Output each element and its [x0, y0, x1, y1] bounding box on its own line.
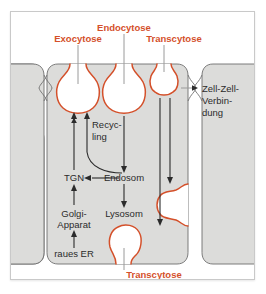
label-transcytose-bottom: Transcytose	[126, 269, 181, 279]
label-golgi-line1: Golgi-	[61, 208, 86, 219]
label-transcytose-top: Transcytose	[146, 33, 201, 44]
label-zell-zell-line3: dung	[202, 107, 223, 118]
cell-left-body	[11, 64, 44, 264]
label-recycling-line1: Recyc-	[92, 119, 122, 130]
figure-panel: Endocytose Exocytose Transcytose Transcy…	[10, 11, 255, 280]
cell-right	[202, 64, 254, 264]
label-raues-er: raues ER	[54, 248, 94, 259]
label-endosom: Endosom	[104, 172, 144, 183]
label-golgi-line2: Apparat	[57, 219, 91, 230]
label-exocytose: Exocytose	[54, 33, 102, 44]
label-zell-zell-line2: Verbin-	[202, 95, 232, 106]
label-recycling-line2: ling	[92, 131, 107, 142]
figure-root: Endocytose Exocytose Transcytose Transcy…	[0, 0, 266, 294]
label-zell-zell-line1: Zell-Zell-	[202, 83, 239, 94]
label-endocytose: Endocytose	[97, 22, 151, 33]
label-tgn: TGN	[64, 172, 84, 183]
epithelial-transport-diagram: Endocytose Exocytose Transcytose Transcy…	[11, 12, 254, 279]
label-lysosom: Lysosom	[105, 208, 143, 219]
